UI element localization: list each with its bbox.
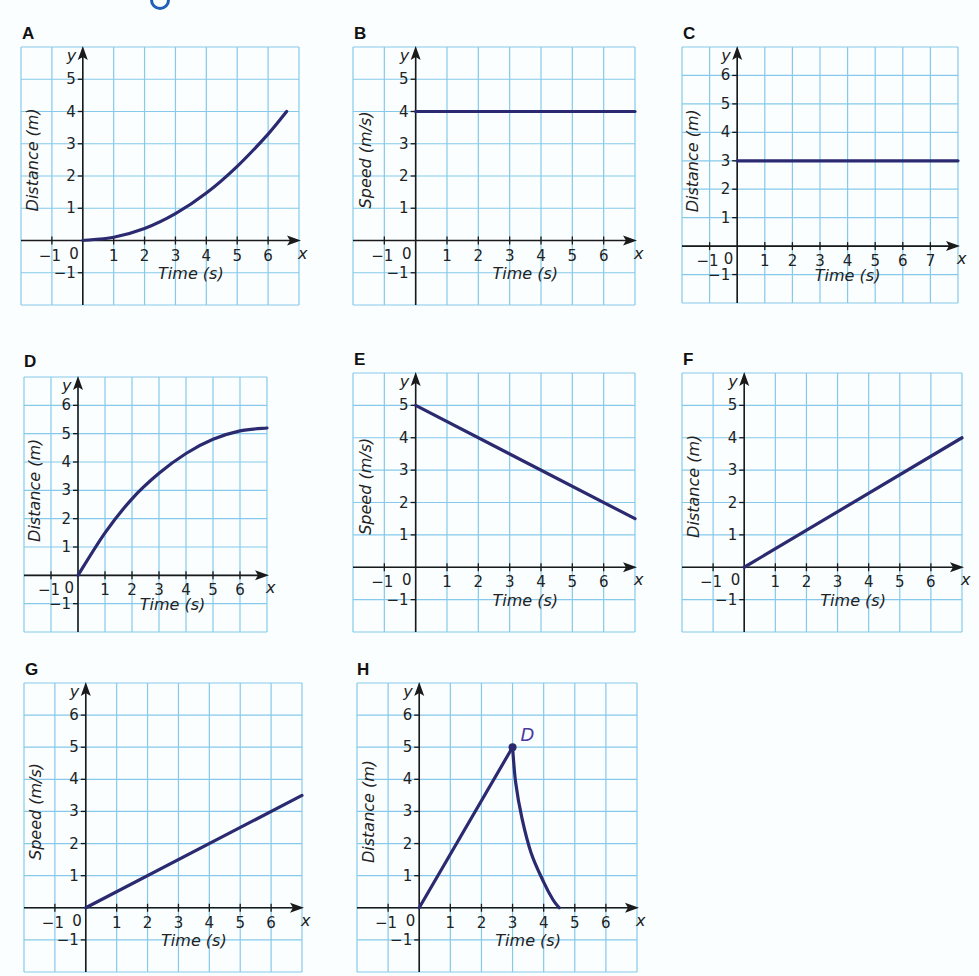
x-tick-label: 5 — [570, 914, 580, 932]
y-tick-label: 4 — [399, 429, 409, 447]
chart-e: 12345612345−10−1xyTime (s)Speed (m/s) — [351, 371, 663, 634]
y-tick-label: 2 — [403, 835, 413, 853]
x-tick-label: 1 — [442, 573, 452, 591]
x-tick-label: 3 — [505, 573, 515, 591]
y-tick-label: 2 — [399, 494, 409, 512]
y-tick-label: 5 — [403, 738, 413, 756]
origin-label: 0 — [406, 912, 416, 930]
y-axis-title: Distance (m) — [23, 108, 42, 211]
x-tick-label: 2 — [802, 573, 812, 591]
y-tick-label: 3 — [403, 802, 413, 820]
origin-label: 0 — [731, 571, 741, 589]
graph-letter-label: H — [357, 660, 369, 680]
axes: 123456123456−10−1xyTime (s)Distance (m) — [357, 682, 646, 972]
x-axis-title: Time (s) — [815, 266, 881, 285]
x-axis-name: x — [265, 578, 276, 597]
y-axis-title: Speed (m/s) — [356, 438, 375, 535]
y-axis-title: Distance (m) — [359, 760, 378, 863]
y-neg-tick-label: −1 — [390, 931, 412, 949]
axes: 123456123456−10−1xyTime (s)Speed (m/s) — [24, 682, 311, 972]
x-neg-tick-label: −1 — [375, 914, 397, 932]
x-tick-label: 2 — [788, 252, 798, 270]
y-tick-label: 1 — [399, 199, 409, 217]
y-neg-tick-label: −1 — [49, 595, 71, 613]
y-axis-name: y — [727, 372, 738, 391]
chart-c: 1234567123456−10−1xyTime (s)Distance (m) — [680, 45, 979, 305]
x-axis-title: Time (s) — [820, 591, 886, 610]
y-tick-label: 2 — [721, 180, 731, 198]
x-axis-title: Time (s) — [158, 264, 224, 283]
x-axis-title: Time (s) — [493, 591, 559, 610]
y-tick-label: 4 — [61, 453, 71, 471]
y-tick-label: 5 — [61, 425, 71, 443]
y-tick-label: 2 — [728, 494, 738, 512]
x-tick-label: 7 — [926, 252, 936, 270]
graph-letter-label: D — [24, 352, 36, 372]
x-tick-label: 1 — [109, 247, 119, 265]
y-tick-label: 5 — [721, 95, 731, 113]
chart-d: 123456123456−10−1xyTime (s)Distance (m) — [22, 375, 295, 634]
y-tick-label: 6 — [403, 706, 413, 724]
y-tick-label: 5 — [69, 738, 79, 756]
x-axis-title: Time (s) — [493, 264, 559, 283]
x-tick-label: 2 — [127, 581, 137, 599]
x-tick-label: 4 — [536, 573, 546, 591]
x-tick-label: 6 — [266, 914, 276, 932]
x-tick-label: 6 — [898, 252, 908, 270]
x-tick-label: 2 — [474, 247, 484, 265]
x-tick-label: 1 — [112, 914, 122, 932]
y-tick-label: 4 — [721, 123, 731, 141]
point-marker — [509, 743, 517, 751]
x-tick-label: 5 — [235, 914, 245, 932]
y-tick-label: 3 — [399, 461, 409, 479]
grid — [24, 683, 302, 972]
y-neg-tick-label: −1 — [715, 591, 737, 609]
x-tick-label: 4 — [536, 247, 546, 265]
x-tick-label: 5 — [208, 581, 218, 599]
y-tick-label: 4 — [66, 103, 76, 121]
y-tick-label: 4 — [403, 770, 413, 788]
chart-b: 12345612345−10−1xyTime (s)Speed (m/s) — [351, 45, 663, 307]
x-tick-label: 1 — [760, 252, 770, 270]
grid — [357, 683, 637, 972]
x-tick-label: 5 — [568, 247, 578, 265]
y-tick-label: 1 — [399, 526, 409, 544]
origin-label: 0 — [402, 245, 412, 263]
y-tick-label: 3 — [66, 135, 76, 153]
y-tick-label: 4 — [69, 770, 79, 788]
x-neg-tick-label: −1 — [371, 247, 393, 265]
x-axis-name: x — [635, 911, 646, 930]
x-axis-name: x — [956, 249, 967, 268]
x-tick-label: 3 — [171, 247, 181, 265]
x-tick-label: 1 — [771, 573, 781, 591]
x-tick-label: 3 — [508, 914, 518, 932]
y-axis-title: Speed (m/s) — [26, 763, 45, 860]
y-neg-tick-label: −1 — [54, 264, 76, 282]
y-axis-title: Speed (m/s) — [356, 111, 375, 208]
y-axis-title: Distance (m) — [683, 109, 702, 212]
x-tick-label: 6 — [601, 914, 611, 932]
x-axis-name: x — [297, 244, 308, 263]
chart-g: 123456123456−10−1xyTime (s)Speed (m/s) — [22, 681, 330, 974]
y-axis-name: y — [720, 46, 731, 65]
graph-letter-label: G — [25, 660, 38, 680]
y-neg-tick-label: −1 — [708, 266, 730, 284]
x-tick-label: 4 — [539, 914, 549, 932]
axes: 123456123456−10−1xyTime (s)Distance (m) — [24, 376, 276, 632]
y-tick-label: 6 — [61, 396, 71, 414]
x-tick-label: 3 — [505, 247, 515, 265]
y-tick-label: 2 — [69, 835, 79, 853]
y-tick-label: 1 — [66, 199, 76, 217]
graph-letter-label: E — [354, 350, 365, 370]
graph-letter-label: B — [354, 24, 366, 44]
chart-a: 12345612345−10−1xyTime (s)Distance (m) — [19, 45, 327, 307]
x-neg-tick-label: −1 — [42, 914, 64, 932]
x-tick-label: 6 — [599, 573, 609, 591]
y-tick-label: 2 — [399, 167, 409, 185]
x-neg-tick-label: −1 — [371, 573, 393, 591]
y-axis-name: y — [69, 682, 80, 701]
x-tick-label: 4 — [205, 914, 215, 932]
x-tick-label: 5 — [232, 247, 242, 265]
y-tick-label: 6 — [69, 706, 79, 724]
origin-label: 0 — [69, 245, 79, 263]
